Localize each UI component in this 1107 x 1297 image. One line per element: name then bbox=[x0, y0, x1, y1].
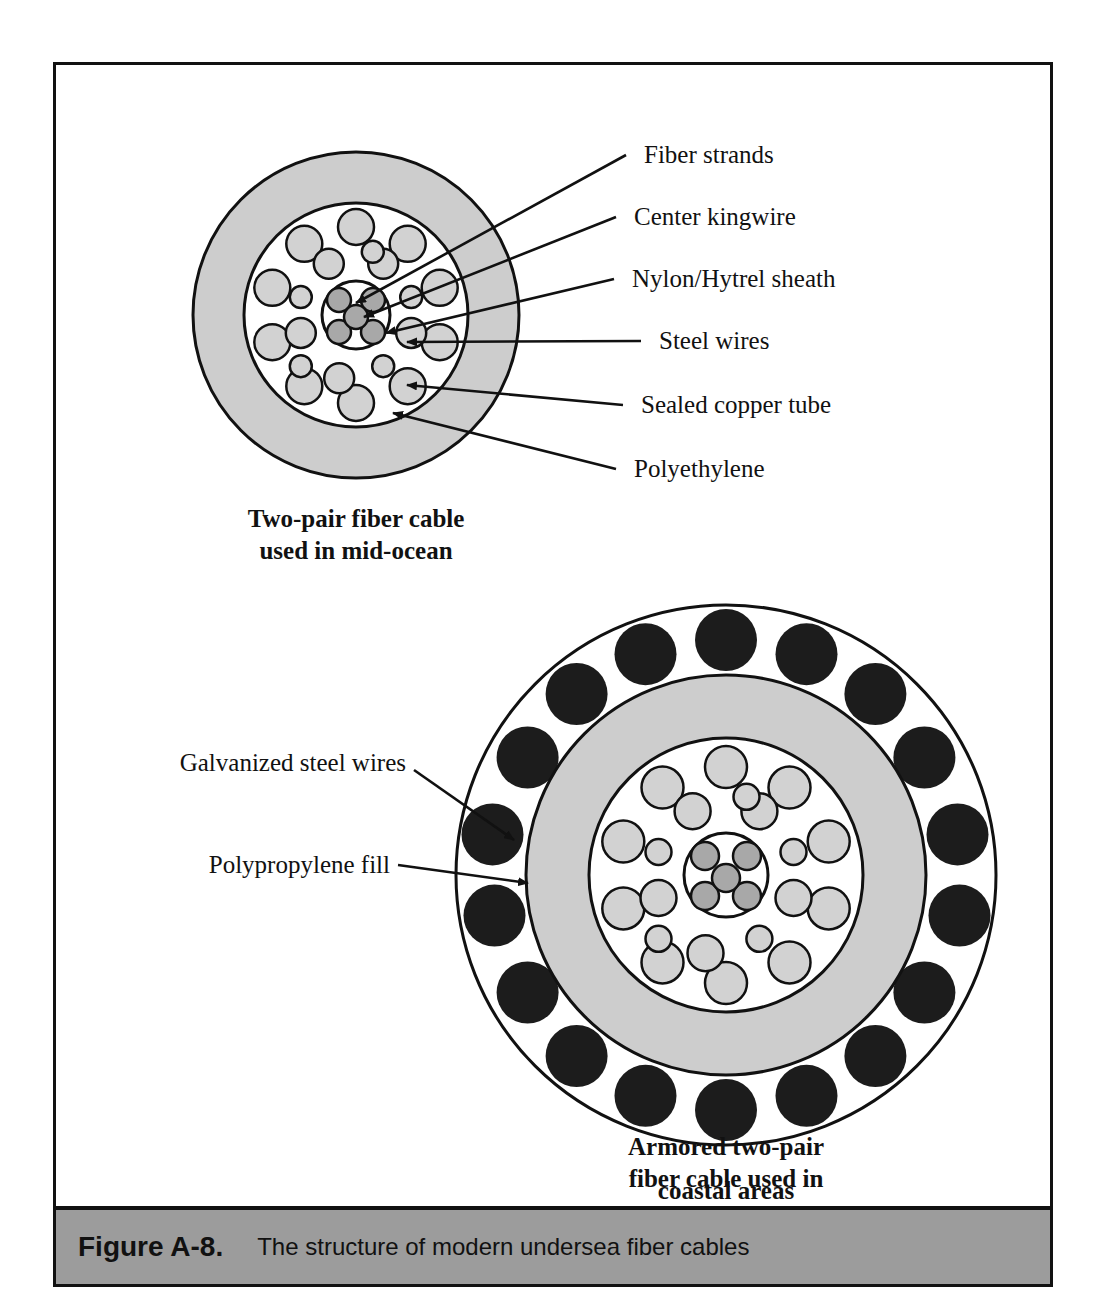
top-cable-cross-section: Fiber strands Center kingwire Nylon/Hytr… bbox=[193, 141, 836, 564]
label-sealed-copper-tube: Sealed copper tube bbox=[641, 391, 831, 418]
label-polypropylene-fill: Polypropylene fill bbox=[209, 851, 390, 878]
diagram-area: Fiber strands Center kingwire Nylon/Hytr… bbox=[56, 65, 1050, 1209]
label-fiber-strands: Fiber strands bbox=[644, 141, 774, 168]
label-galvanized-steel-wires: Galvanized steel wires bbox=[180, 749, 406, 776]
figure-caption-text: The structure of modern undersea fiber c… bbox=[257, 1233, 749, 1261]
bottom-cable-title-line3: coastal areas bbox=[658, 1177, 795, 1204]
label-steel-wires: Steel wires bbox=[659, 327, 769, 354]
top-cable-title-line1: Two-pair fiber cable bbox=[248, 505, 465, 532]
label-center-kingwire: Center kingwire bbox=[634, 203, 796, 230]
cable-cross-section-diagram: Fiber strands Center kingwire Nylon/Hytr… bbox=[56, 65, 1050, 1209]
figure-caption-bar: Figure A-8. The structure of modern unde… bbox=[56, 1206, 1050, 1284]
bottom-cable-title-overflow: coastal areas bbox=[56, 1169, 1050, 1209]
armored-center-kingwire-strand bbox=[712, 864, 740, 892]
leader-steel-wires bbox=[407, 341, 641, 342]
top-cable-title-line2: used in mid-ocean bbox=[259, 537, 452, 564]
figure-number: Figure A-8. bbox=[78, 1231, 223, 1263]
label-polyethylene: Polyethylene bbox=[634, 455, 765, 482]
label-nylon-hytrel-sheath: Nylon/Hytrel sheath bbox=[632, 265, 836, 292]
bottom-cable-cross-section: Galvanized steel wires Polypropylene fil… bbox=[180, 605, 996, 1192]
figure-frame: Fiber strands Center kingwire Nylon/Hytr… bbox=[53, 62, 1053, 1287]
bottom-cable-title-line1: Armored two-pair bbox=[628, 1133, 824, 1160]
